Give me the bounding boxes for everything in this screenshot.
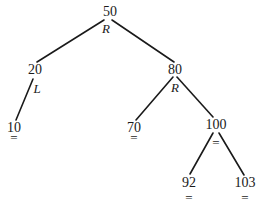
node-50: 50 [103,5,117,19]
edge-100-103 [219,133,244,175]
balance-factor-100: = [212,136,219,149]
node-20: 20 [28,63,42,77]
balance-factor-20: L [33,82,40,95]
edge-80-100 [177,77,213,117]
edge-100-92 [190,133,213,174]
edge-80-70 [136,77,173,120]
balance-factor-50: R [102,22,110,35]
balance-factor-103: = [241,191,248,204]
node-100: 100 [206,118,227,132]
balance-factor-70: = [130,131,137,144]
edge-50-80 [112,20,174,62]
node-92: 92 [182,176,196,190]
edge-20-10 [16,79,33,120]
balance-factor-10: = [10,131,17,144]
node-80: 80 [168,63,182,77]
balance-factor-92: = [185,191,192,204]
balance-factor-80: R [171,81,179,94]
node-103: 103 [235,176,256,190]
tree-edges [0,0,260,205]
tree-diagram: 50 R 20 L 80 R 10 = 70 = 100 = 92 = 103 … [0,0,260,205]
edge-50-20 [37,20,104,62]
